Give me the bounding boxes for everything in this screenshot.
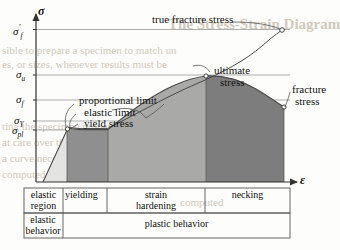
cell-line-2: behavior [22, 226, 64, 237]
cell-line-1: yielding [65, 190, 107, 201]
marker-proportional-limit [65, 127, 69, 131]
annotation-proportional-limit: proportional limit [79, 95, 157, 107]
marker-true-fracture-stress [280, 28, 285, 33]
y-tick-label-sigma-u: σu [16, 68, 25, 83]
cell-line-2: region [24, 201, 63, 212]
annotation-true-fracture-stress: true fracture stress [152, 14, 233, 26]
annotation-ultimate-stress-line1: ultimate [214, 65, 250, 77]
y-tick-label-sigma-pl: σpl [12, 124, 23, 139]
annotation-fracture-stress-line1: fracture [292, 84, 326, 96]
y-tick-label-sigma-f: σf [16, 93, 24, 108]
table-cell-yielding: yielding [65, 190, 107, 201]
table-cell-strain-hardening: strain hardening [107, 190, 205, 212]
table-cell-plastic-behavior: plastic behavior [63, 219, 290, 230]
table-cell-elastic-behavior: elastic behavior [22, 215, 64, 237]
subscript-f: f [20, 31, 22, 40]
leader-fracture-stress [285, 92, 290, 107]
annotation-ultimate-stress-line2: stress [220, 77, 244, 89]
annotation-yield-stress: yield stress [84, 118, 133, 130]
y-axis-label: σ [38, 4, 44, 19]
region-fill-yielding [67, 128, 108, 183]
region-fill-necking [206, 76, 284, 182]
leader-ultimate-stress [193, 65, 210, 72]
leader-true-fracture-stress [232, 22, 280, 29]
cell-line-2: hardening [107, 201, 205, 212]
cell-line-1: plastic behavior [63, 219, 290, 230]
annotation-fracture-stress-line2: stress [295, 96, 319, 108]
cell-line-1: necking [205, 190, 290, 201]
table-cell-elastic-region: elastic region [24, 190, 63, 212]
x-axis-label: ε [300, 173, 305, 188]
table-cell-necking: necking [205, 190, 290, 201]
marker-ultimate-stress [204, 74, 208, 78]
y-tick-label-sigma-f-true: σ′f [13, 22, 22, 40]
